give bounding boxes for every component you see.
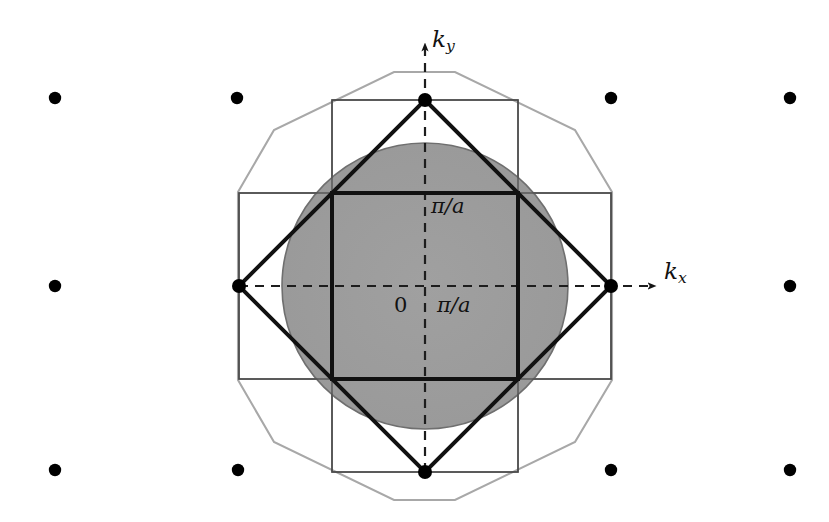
origin-label: 0 (394, 293, 407, 317)
lattice-point (49, 464, 61, 476)
kx-axis-label-base: k (664, 258, 678, 284)
lattice-point (605, 92, 617, 104)
lattice-point (231, 92, 243, 104)
lattice-point (784, 92, 796, 104)
ky-axis-label-base: k (432, 26, 446, 52)
kx-axis-label-sub: x (678, 268, 687, 287)
lattice-point (232, 279, 246, 293)
lattice-point (605, 464, 617, 476)
lattice-point (604, 279, 618, 293)
lattice-point (49, 92, 61, 104)
kx-axis-label: kx (664, 258, 687, 287)
lattice-point (784, 280, 796, 292)
lattice-point (418, 93, 432, 107)
pi-over-a-y-label: π/a (431, 194, 464, 218)
lattice-point (232, 464, 244, 476)
ky-axis-label-sub: y (446, 36, 455, 55)
ky-axis-label: ky (432, 26, 455, 55)
pi-over-a-x-label: π/a (437, 293, 470, 317)
lattice-point (418, 465, 432, 479)
lattice-point (784, 464, 796, 476)
brillouin-zone-figure: kx ky 0 π/a π/a (0, 0, 829, 522)
brillouin-zone-canvas (0, 0, 829, 522)
lattice-point (49, 280, 61, 292)
